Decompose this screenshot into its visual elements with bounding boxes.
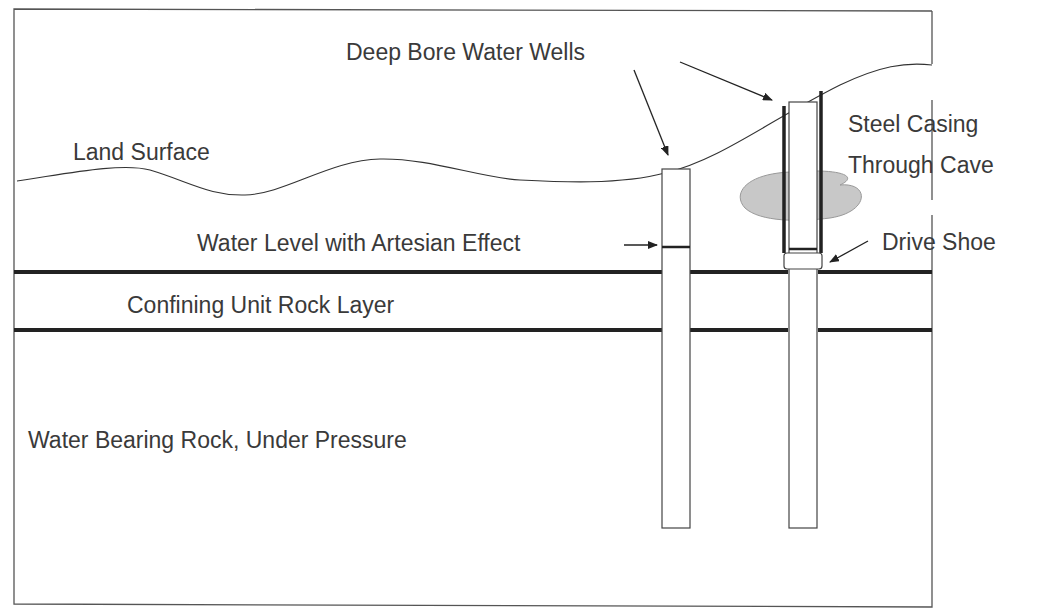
- label-steel-casing-line2: Through Cave: [848, 152, 994, 178]
- artesian-well-diagram: Deep Bore Water Wells Land Surface Steel…: [0, 0, 1041, 616]
- arrow-to-left-well: [634, 70, 668, 155]
- label-land-surface: Land Surface: [73, 139, 210, 165]
- label-water-bearing-rock: Water Bearing Rock, Under Pressure: [28, 427, 407, 453]
- label-confining-unit: Confining Unit Rock Layer: [127, 292, 395, 318]
- label-deep-bore-wells: Deep Bore Water Wells: [346, 39, 585, 65]
- arrow-drive-shoe: [830, 241, 868, 262]
- label-water-level: Water Level with Artesian Effect: [197, 230, 521, 256]
- left-well-bore: [662, 169, 690, 528]
- right-well-bore: [789, 102, 817, 528]
- drive-shoe: [784, 253, 822, 269]
- arrow-to-right-well: [680, 62, 772, 100]
- label-steel-casing-line1: Steel Casing: [848, 111, 978, 137]
- label-drive-shoe: Drive Shoe: [882, 229, 996, 255]
